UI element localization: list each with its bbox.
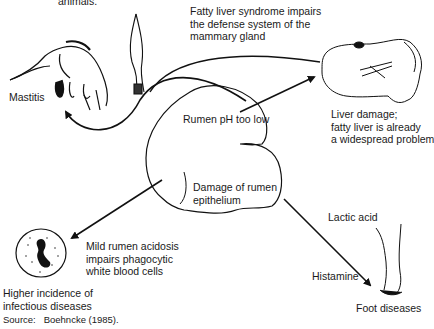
rumen-damage-label: Damage of rumen epithelium [193, 181, 277, 206]
hoof-icon [376, 224, 402, 295]
white-blood-cell-icon [16, 229, 66, 277]
source-line: Source: Boehncke (1985). [3, 314, 119, 327]
liver-icon [322, 39, 422, 102]
mastitis-note: Fatty liver syndrome impairs the defense… [190, 5, 321, 43]
tail-icon [130, 14, 144, 94]
arrow-to-wbc [72, 180, 162, 238]
top-cut-text: animals. [58, 0, 97, 8]
wbc-note: Mild rumen acidosis impairs phagocytic w… [86, 240, 179, 278]
rumen-ph-label: Rumen pH too low [183, 113, 269, 126]
histamine-label: Histamine [312, 270, 359, 283]
foot-diseases-label: Foot diseases [356, 302, 421, 315]
infection-label: Higher incidence of infectious diseases [3, 287, 93, 312]
arrow-to-liver [240, 77, 314, 112]
lactic-acid-label: Lactic acid [328, 211, 378, 224]
mastitis-label: Mastitis [9, 91, 45, 104]
liver-label: Liver damage; fatty liver is already a w… [331, 108, 434, 146]
